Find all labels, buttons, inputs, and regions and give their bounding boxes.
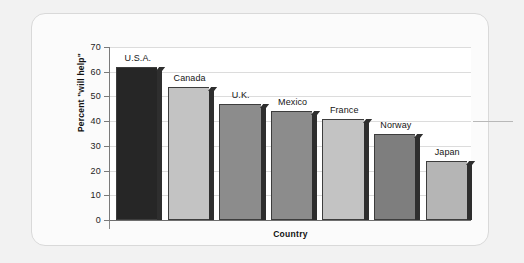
gridline xyxy=(110,47,471,48)
bar-side-face xyxy=(415,137,420,221)
bar-side-face xyxy=(261,107,266,220)
bar-side-face xyxy=(157,70,162,220)
y-tick-label: 40 xyxy=(91,116,101,126)
bar: Canada xyxy=(168,87,209,220)
edge-tick-mark xyxy=(473,121,513,122)
bar: France xyxy=(322,119,363,220)
bar-body xyxy=(322,119,363,220)
bar: U.K. xyxy=(219,104,260,220)
y-tick-label: 20 xyxy=(91,166,101,176)
bar-body xyxy=(271,111,312,220)
y-tick xyxy=(104,121,110,122)
y-tick xyxy=(104,96,110,97)
bar-category-label: U.K. xyxy=(232,90,250,100)
bar-side-face xyxy=(467,164,472,220)
y-tick-label: 50 xyxy=(91,91,101,101)
bar-body xyxy=(168,87,209,220)
y-tick-label: 30 xyxy=(91,141,101,151)
y-tick-label: 0 xyxy=(96,215,101,225)
y-tick xyxy=(104,220,110,221)
bar-category-label: U.S.A. xyxy=(125,53,152,63)
y-tick xyxy=(104,146,110,147)
chart-page: Percent "will help" Country 010203040506… xyxy=(0,0,524,263)
bar-body xyxy=(374,134,415,221)
gridline xyxy=(110,72,471,73)
y-tick xyxy=(104,195,110,196)
bar-side-face xyxy=(364,122,369,220)
bar-side-face xyxy=(209,90,214,220)
bar-side-face xyxy=(312,114,317,220)
y-axis-stub xyxy=(109,220,110,229)
bar-category-label: Canada xyxy=(174,73,206,83)
y-tick-label: 10 xyxy=(91,190,101,200)
bar-body xyxy=(219,104,260,220)
bar-category-label: France xyxy=(330,105,359,115)
bar-category-label: Mexico xyxy=(278,97,307,107)
bar-top-face xyxy=(466,161,475,165)
bar: Norway xyxy=(374,134,415,221)
bar-body xyxy=(116,67,157,220)
y-tick-label: 70 xyxy=(91,42,101,52)
plot-area: 010203040506070 U.S.A.CanadaU.K.MexicoFr… xyxy=(110,47,471,220)
bar-category-label: Norway xyxy=(380,120,411,130)
y-axis-title: Percent "will help" xyxy=(76,53,86,132)
bar: U.S.A. xyxy=(116,67,157,220)
chart-card: Percent "will help" Country 010203040506… xyxy=(31,13,489,246)
bar-category-label: Japan xyxy=(435,147,460,157)
bar: Japan xyxy=(426,161,467,220)
bar: Mexico xyxy=(271,111,312,220)
x-axis-title: Country xyxy=(110,229,471,239)
y-tick xyxy=(104,72,110,73)
y-tick-label: 60 xyxy=(91,67,101,77)
y-tick xyxy=(104,171,110,172)
y-tick xyxy=(104,47,110,48)
gridline xyxy=(110,220,471,221)
y-axis-line xyxy=(109,47,110,220)
bar-body xyxy=(426,161,467,220)
